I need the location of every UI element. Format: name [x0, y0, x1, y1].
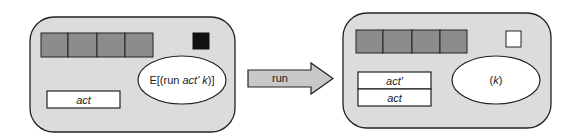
expression-ellipse: (k)	[452, 56, 540, 104]
stack-frame: act	[47, 91, 120, 108]
flag-square-empty	[506, 31, 521, 47]
stack-frame-bottom-label: act	[387, 92, 403, 104]
register-bar	[356, 30, 467, 53]
after-state-panel: (k) act' act	[343, 13, 551, 128]
stack: act' act	[358, 72, 431, 106]
register-bar	[41, 33, 153, 57]
flag-square-filled	[193, 33, 209, 49]
before-state-panel: E[(run act' k)] act	[30, 17, 235, 132]
diagram-canvas: E[(run act' k)] act run (k) act' act	[0, 0, 577, 139]
stack-frame-label: act	[76, 94, 92, 106]
expression-ellipse: E[(run act' k)]	[138, 56, 226, 104]
transition-label: run	[272, 72, 288, 84]
transition-arrow: run	[248, 63, 333, 94]
expression-label: (k)	[490, 74, 503, 86]
stack-frame-top-label: act'	[386, 75, 404, 87]
expression-label: E[(run act' k)]	[149, 74, 214, 86]
